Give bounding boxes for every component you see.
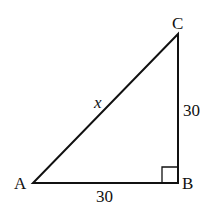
- side-label-ac: x: [93, 93, 102, 112]
- right-angle-marker: [162, 167, 178, 183]
- side-label-ab: 30: [96, 187, 113, 206]
- side-label-bc: 30: [183, 101, 200, 120]
- vertex-label-c: C: [172, 14, 183, 33]
- vertex-label-b: B: [182, 174, 193, 193]
- vertex-label-a: A: [14, 174, 27, 193]
- triangle-diagram: A B C x 30 30: [0, 0, 212, 211]
- triangle-abc: [33, 34, 178, 183]
